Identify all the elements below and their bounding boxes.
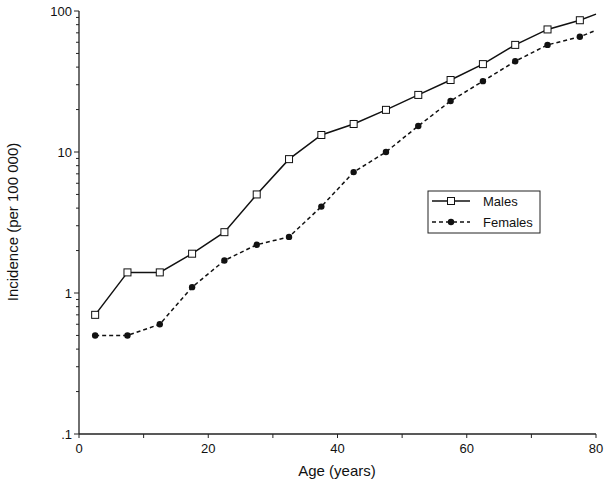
data-point-males <box>92 311 99 318</box>
y-tick-label: 10 <box>58 145 72 160</box>
data-point-females <box>318 203 324 209</box>
data-point-females <box>124 332 130 338</box>
series-line-females <box>95 30 596 335</box>
data-point-males <box>447 77 454 84</box>
data-point-females <box>221 257 227 263</box>
chart: 020406080.1110100 Age (years) Incidence … <box>0 0 606 486</box>
series-layer <box>92 14 596 339</box>
data-point-females <box>577 34 583 40</box>
data-point-females <box>415 123 421 129</box>
x-tick-label: 60 <box>460 441 474 456</box>
y-tick-label: 1 <box>65 286 72 301</box>
data-point-males <box>544 26 551 33</box>
legend-marker-males <box>448 198 455 205</box>
legend: Males Females <box>428 191 540 233</box>
data-point-females <box>480 78 486 84</box>
data-point-males <box>382 106 389 113</box>
data-point-females <box>92 332 98 338</box>
x-tick-label: 20 <box>201 441 215 456</box>
data-point-males <box>156 269 163 276</box>
data-point-females <box>544 42 550 48</box>
data-point-males <box>512 41 519 48</box>
data-point-males <box>318 131 325 138</box>
y-axis-title: Incidence (per 100 000) <box>4 143 21 301</box>
data-point-females <box>254 242 260 248</box>
data-point-males <box>221 229 228 236</box>
data-point-females <box>350 169 356 175</box>
x-tick-label: 0 <box>75 441 82 456</box>
legend-label-females: Females <box>483 215 533 230</box>
data-point-males <box>124 269 131 276</box>
y-tick-label: .1 <box>61 427 72 442</box>
data-point-females <box>512 58 518 64</box>
x-tick-label: 40 <box>330 441 344 456</box>
data-point-females <box>189 284 195 290</box>
x-tick-label: 80 <box>589 441 603 456</box>
data-point-males <box>253 191 260 198</box>
data-point-males <box>189 250 196 257</box>
data-point-males <box>286 156 293 163</box>
data-point-males <box>576 17 583 24</box>
legend-marker-females <box>448 219 454 225</box>
data-point-males <box>350 120 357 127</box>
data-point-females <box>447 98 453 104</box>
data-point-females <box>157 321 163 327</box>
data-point-males <box>479 61 486 68</box>
data-point-females <box>286 234 292 240</box>
y-tick-label: 100 <box>50 4 72 19</box>
data-point-males <box>415 91 422 98</box>
data-point-females <box>383 149 389 155</box>
x-axis-title: Age (years) <box>298 462 376 479</box>
legend-label-males: Males <box>483 194 518 209</box>
